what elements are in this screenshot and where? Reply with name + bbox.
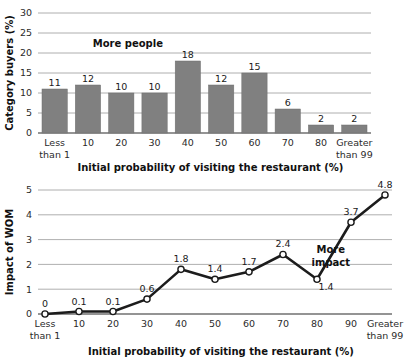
bar-value-label: 10	[149, 81, 161, 92]
data-point-label: 1.7	[241, 256, 256, 267]
data-point-marker	[382, 192, 388, 198]
y-tick-label: 3	[26, 234, 32, 245]
data-point-label: 0	[42, 298, 48, 309]
x-category-label: 40	[175, 318, 187, 329]
data-point-label: 2.4	[275, 238, 290, 249]
x-category-label: 70	[277, 318, 289, 329]
y-tick-label: 25	[20, 27, 32, 38]
bar	[342, 125, 367, 133]
y-tick-label: 2	[26, 259, 32, 270]
data-point-label: 0.1	[71, 296, 86, 307]
y-tick-label: 30	[20, 7, 32, 18]
y-tick-label: 5	[26, 184, 32, 195]
chart-canvas: 05101520253011Lessthan 11210102010301840…	[0, 0, 412, 358]
bar	[242, 73, 267, 133]
x-category-label: than 99	[336, 149, 373, 160]
data-point-marker	[246, 269, 252, 275]
x-category-label: 70	[282, 137, 294, 148]
x-category-label: 20	[107, 318, 119, 329]
data-point-marker	[280, 251, 286, 257]
x-category-label: Greater	[336, 137, 372, 148]
bar-value-label: 18	[182, 49, 194, 60]
bar-value-label: 15	[248, 61, 260, 72]
bar-value-label: 11	[49, 77, 61, 88]
x-category-label: than 1	[39, 149, 70, 160]
bar	[209, 85, 234, 133]
x-category-label: 60	[248, 137, 260, 148]
x-category-label: 50	[209, 318, 221, 329]
x-category-label: 80	[311, 318, 323, 329]
chart-annotation: More	[317, 244, 346, 255]
y-axis-title: Impact of WOM	[4, 209, 15, 295]
x-category-label: than 99	[367, 330, 404, 341]
y-tick-label: 10	[20, 87, 32, 98]
bar-value-label: 12	[215, 73, 227, 84]
x-category-label: Less	[35, 318, 56, 329]
x-category-label: Greater	[367, 318, 403, 329]
y-tick-label: 1	[26, 284, 32, 295]
y-tick-label: 4	[26, 209, 32, 220]
data-point-marker	[348, 219, 354, 225]
x-category-label: Less	[44, 137, 65, 148]
data-point-label: 0.1	[105, 296, 120, 307]
y-axis-title: Category buyers (%)	[4, 15, 15, 131]
data-point-label: 3.7	[343, 206, 358, 217]
y-tick-label: 15	[20, 67, 32, 78]
bar	[175, 61, 200, 133]
x-category-label: 40	[182, 137, 194, 148]
bar	[142, 93, 167, 133]
y-tick-label: 5	[26, 107, 32, 118]
data-point-marker	[178, 266, 184, 272]
x-axis-title: Initial probability of visiting the rest…	[88, 346, 354, 357]
x-category-label: 10	[82, 137, 94, 148]
y-tick-label: 0	[26, 127, 32, 138]
x-axis-title: Initial probability of visiting the rest…	[78, 162, 344, 173]
bar-value-label: 12	[82, 73, 94, 84]
bar	[75, 85, 100, 133]
y-tick-label: 0	[26, 308, 32, 319]
data-point-label: 1.4	[318, 281, 333, 292]
x-category-label: 90	[345, 318, 357, 329]
y-tick-label: 20	[20, 47, 32, 58]
bar-value-label: 2	[351, 113, 357, 124]
data-point-label: 1.4	[207, 263, 222, 274]
data-point-marker	[110, 308, 116, 314]
chart-annotation: More people	[93, 38, 163, 49]
bar-value-label: 10	[115, 81, 127, 92]
x-category-label: 30	[141, 318, 153, 329]
bar	[308, 125, 333, 133]
x-category-label: 50	[215, 137, 227, 148]
bar-value-label: 6	[285, 97, 291, 108]
x-category-label: 20	[115, 137, 127, 148]
data-point-marker	[212, 276, 218, 282]
data-point-label: 0.6	[139, 283, 154, 294]
x-category-label: 80	[315, 137, 327, 148]
x-category-label: 60	[243, 318, 255, 329]
x-category-label: 10	[73, 318, 85, 329]
bar	[275, 109, 300, 133]
data-point-label: 4.8	[377, 179, 392, 190]
x-category-label: than 1	[30, 330, 61, 341]
bar	[42, 89, 67, 133]
data-point-marker	[144, 296, 150, 302]
x-category-label: 30	[149, 137, 161, 148]
data-point-marker	[76, 308, 82, 314]
data-point-marker	[42, 311, 48, 317]
bar-value-label: 2	[318, 113, 324, 124]
figure-background	[0, 0, 412, 358]
two-chart-figure: 05101520253011Lessthan 11210102010301840…	[0, 0, 412, 358]
chart-annotation: impact	[312, 257, 351, 268]
bar	[109, 93, 134, 133]
data-point-label: 1.8	[173, 253, 188, 264]
